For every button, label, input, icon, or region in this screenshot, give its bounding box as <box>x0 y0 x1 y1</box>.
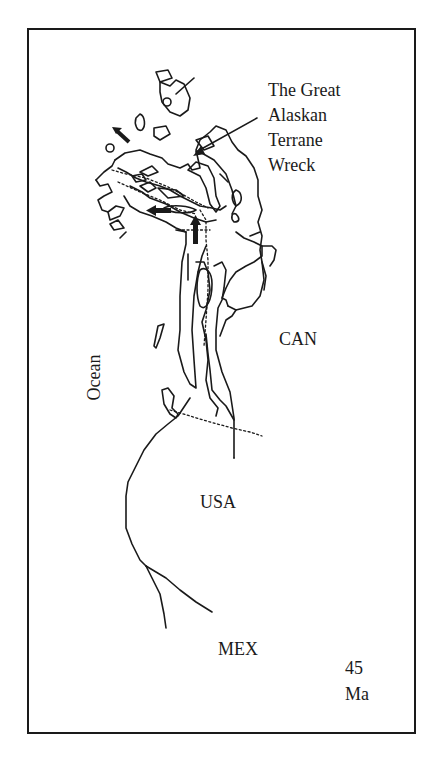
northwest-motion-arrow <box>112 127 129 142</box>
callout-line-1: The Great <box>268 78 340 103</box>
northern-islands <box>106 70 194 152</box>
terrane-wreck-callout: The Great Alaskan Terrane Wreck <box>268 78 340 178</box>
fault-lines <box>112 170 262 436</box>
canada-label: CAN <box>279 327 317 352</box>
mexico-label: MEX <box>218 637 258 662</box>
callout-line-3: Terrane <box>268 128 340 153</box>
usa-label: USA <box>200 490 236 515</box>
callout-line-4: Wreck <box>268 153 340 178</box>
age-unit: Ma <box>345 681 369 707</box>
cordillera-belts <box>176 230 236 458</box>
age-value: 45 <box>345 655 369 681</box>
age-label: 45 Ma <box>345 655 369 707</box>
callout-line-2: Alaskan <box>268 103 340 128</box>
offshore-slivers <box>154 324 178 418</box>
ocean-label: Ocean <box>82 355 107 401</box>
canadian-margin <box>222 232 276 306</box>
